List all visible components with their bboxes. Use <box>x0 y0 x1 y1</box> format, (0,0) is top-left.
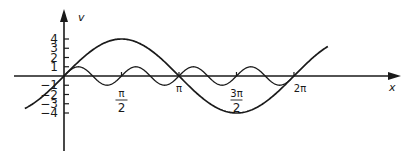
y-axis-arrow-icon <box>60 9 68 22</box>
x-axis-label: x <box>388 81 396 94</box>
x-tick-label: π <box>176 83 182 94</box>
x-tick-label-numerator: π <box>118 88 124 99</box>
y-tick-label: −4 <box>40 106 58 120</box>
x-tick-label-numerator: 3π <box>230 88 242 99</box>
y-axis-label: v <box>78 11 85 24</box>
x-tick-label-denominator: 2 <box>118 101 126 115</box>
axes: v x <box>14 9 401 151</box>
y-tick-label: 1 <box>50 60 58 74</box>
x-axis-arrow-icon <box>388 72 401 80</box>
chart: v x 4321−1−2−3−4 π2π3π22π <box>0 0 412 167</box>
x-tick-label: 2π <box>294 83 306 94</box>
